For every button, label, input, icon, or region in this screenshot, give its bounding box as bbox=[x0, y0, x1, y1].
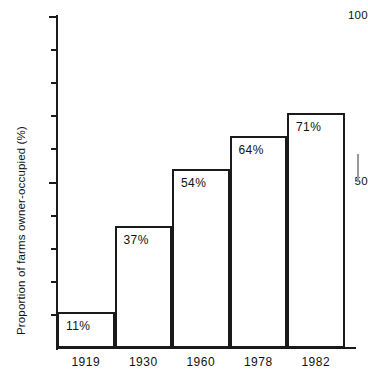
x-axis-label-1982: 1982 bbox=[287, 355, 345, 369]
bar-value-label-1960: 54% bbox=[181, 176, 206, 190]
bar-1960 bbox=[172, 169, 230, 348]
y-tick-100 bbox=[49, 16, 57, 18]
y-tick-50 bbox=[49, 182, 57, 184]
scan-artifact-mark bbox=[357, 154, 359, 182]
y-tick-60 bbox=[51, 148, 57, 150]
y-tick-30 bbox=[51, 248, 57, 250]
x-axis-label-1919: 1919 bbox=[57, 355, 115, 369]
y-axis-title: Proportion of farms owner-occupied (%) bbox=[10, 35, 32, 335]
y-tick-20 bbox=[51, 281, 57, 283]
x-axis-label-1978: 1978 bbox=[230, 355, 288, 369]
bar-chart-figure: Proportion of farms owner-occupied (%) 1… bbox=[0, 0, 368, 380]
bar-1982 bbox=[287, 113, 345, 348]
y-tick-80 bbox=[51, 82, 57, 84]
bar-value-label-1982: 71% bbox=[296, 120, 321, 134]
y-tick-40 bbox=[51, 215, 57, 217]
x-axis-label-1930: 1930 bbox=[115, 355, 173, 369]
bar-value-label-1930: 37% bbox=[124, 233, 149, 247]
y-tick-label-100: 100 bbox=[324, 9, 368, 21]
bar-value-label-1919: 11% bbox=[66, 319, 90, 333]
y-tick-70 bbox=[51, 115, 57, 117]
y-tick-90 bbox=[51, 49, 57, 51]
x-axis-label-1960: 1960 bbox=[172, 355, 230, 369]
bar-1978 bbox=[230, 136, 288, 348]
bar-value-label-1978: 64% bbox=[239, 143, 264, 157]
